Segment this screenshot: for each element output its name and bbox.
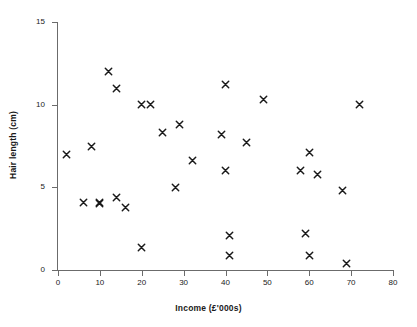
data-point-marker — [104, 67, 113, 76]
data-point-marker — [313, 170, 322, 179]
data-point-marker — [146, 100, 155, 109]
data-point-marker — [242, 138, 251, 147]
data-point-marker — [221, 166, 230, 175]
x-tick-label: 50 — [255, 279, 279, 287]
data-point-marker — [296, 166, 305, 175]
x-tick — [226, 271, 227, 276]
x-tick-label: 40 — [214, 279, 238, 287]
x-tick-label: 30 — [172, 279, 196, 287]
y-tick-label: 5 — [21, 183, 45, 191]
data-point-marker — [188, 156, 197, 165]
x-tick-label: 80 — [381, 279, 405, 287]
data-point-marker — [95, 199, 104, 208]
data-point-marker — [121, 203, 130, 212]
y-tick-label: 0 — [21, 266, 45, 274]
y-tick-label: 10 — [21, 101, 45, 109]
x-tick-label: 60 — [297, 279, 321, 287]
x-axis-title: Income (£'000s) — [0, 303, 417, 313]
data-point-marker — [87, 142, 96, 151]
x-tick — [267, 271, 268, 276]
data-point-marker — [342, 259, 351, 268]
data-point-marker — [217, 130, 226, 139]
scatter-chart: 051015 01020304050607080 Income (£'000s)… — [0, 0, 417, 327]
data-point-marker — [158, 128, 167, 137]
x-tick — [142, 271, 143, 276]
data-point-marker — [301, 229, 310, 238]
y-axis-title: Hair length (cm) — [8, 85, 18, 205]
x-tick — [351, 271, 352, 276]
data-point-marker — [225, 231, 234, 240]
data-point-marker — [355, 100, 364, 109]
x-tick — [100, 271, 101, 276]
x-tick-label: 70 — [339, 279, 363, 287]
data-point-marker — [305, 251, 314, 260]
data-point-marker — [137, 243, 146, 252]
data-point-marker — [62, 150, 71, 159]
data-point-marker — [171, 183, 180, 192]
data-point-marker — [112, 193, 121, 202]
x-tick — [309, 271, 310, 276]
data-point-marker — [175, 120, 184, 129]
x-tick-label: 20 — [130, 279, 154, 287]
data-point-marker — [221, 80, 230, 89]
data-point-marker — [338, 186, 347, 195]
x-tick — [393, 271, 394, 276]
x-tick — [58, 271, 59, 276]
data-point-marker — [79, 198, 88, 207]
data-point-marker — [259, 95, 268, 104]
x-tick-label: 10 — [88, 279, 112, 287]
y-tick-label: 15 — [21, 18, 45, 26]
data-point-marker — [305, 148, 314, 157]
data-point-marker — [225, 251, 234, 260]
data-point-marker — [112, 84, 121, 93]
x-tick — [184, 271, 185, 276]
x-tick-label: 0 — [46, 279, 70, 287]
